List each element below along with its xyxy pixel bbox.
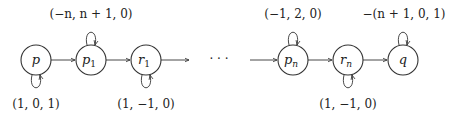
loop-p1 <box>86 32 95 45</box>
loop-label-p1: (−n, n + 1, 0) <box>49 7 132 21</box>
loop-pn <box>288 32 297 45</box>
loop-rn <box>343 75 352 88</box>
loop-label-q: −(n + 1, 0, 1) <box>363 7 446 21</box>
loop-q <box>398 32 407 45</box>
loop-label-p: (1, 0, 1) <box>12 97 60 111</box>
state-diagram: p p1 r1 pn rn q · · · (1, 0, 1) (−n, n +… <box>0 0 454 120</box>
loop-p <box>31 75 40 88</box>
loop-label-rn: (1, −1, 0) <box>319 97 377 111</box>
ellipsis: · · · <box>209 52 228 66</box>
node-label-q: q <box>399 52 407 67</box>
loop-label-pn: (−1, 2, 0) <box>264 7 322 21</box>
node-label-p: p <box>32 52 41 67</box>
loop-label-r1: (1, −1, 0) <box>117 97 175 111</box>
loop-r1 <box>141 75 150 88</box>
